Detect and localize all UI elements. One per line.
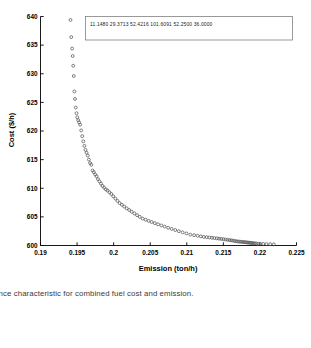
y-tick-label: 610 xyxy=(27,185,38,192)
x-tick-label: 0.19 xyxy=(34,249,47,256)
y-tick-label: 635 xyxy=(27,41,38,48)
y-tick-label: 615 xyxy=(27,156,38,163)
figure-caption: rgence characteristic for combined fuel … xyxy=(0,288,311,299)
y-tick-label: 640 xyxy=(27,13,38,20)
x-axis-label: Emission (ton/h) xyxy=(139,264,198,273)
legend-box: 11.1480 29.3713 52.4216 101.6091 52.2500… xyxy=(86,17,293,41)
y-tick-label: 600 xyxy=(27,242,38,249)
figure-container: 0.190.1950.20.2050.210.2150.220.225 6006… xyxy=(0,0,311,348)
caption-text: rgence characteristic for combined fuel … xyxy=(0,288,193,299)
x-tick-label: 0.2 xyxy=(109,249,118,256)
x-tick-label: 0.22 xyxy=(254,249,267,256)
y-tick-labels: 600605610615620625630635640 xyxy=(27,13,38,249)
y-tick-label: 630 xyxy=(27,70,38,77)
x-tick-label: 0.215 xyxy=(215,249,231,256)
x-tick-label: 0.21 xyxy=(181,249,194,256)
legend-values-text: 11.1480 29.3713 52.4216 101.6091 52.2500… xyxy=(90,22,213,27)
x-tick-label: 0.225 xyxy=(289,249,305,256)
x-tick-label: 0.195 xyxy=(69,249,85,256)
y-tick-label: 620 xyxy=(27,127,38,134)
y-tick-label: 605 xyxy=(27,213,38,220)
legend-box-frame xyxy=(86,17,293,41)
y-axis-label: Cost ($/h) xyxy=(7,112,16,147)
x-tick-label: 0.205 xyxy=(142,249,158,256)
y-tick-label: 625 xyxy=(27,99,38,106)
